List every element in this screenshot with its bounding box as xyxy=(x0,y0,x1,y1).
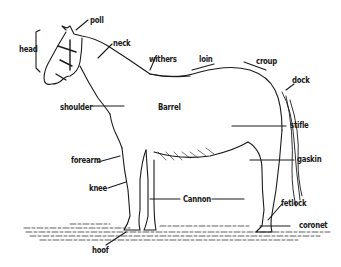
label-poll: poll xyxy=(90,15,104,25)
label-fetlock: fetlock xyxy=(281,198,306,208)
label-cannon: Cannon xyxy=(183,194,211,204)
horse-anatomy-diagram: poll head neck withers loin croup dock s… xyxy=(0,0,341,267)
label-knee: knee xyxy=(89,183,107,193)
leader-hoof xyxy=(106,232,126,245)
label-loin: loin xyxy=(199,54,213,64)
leader-neck xyxy=(98,44,112,58)
leader-knee xyxy=(108,182,126,188)
label-dock: dock xyxy=(292,75,310,85)
tail xyxy=(282,92,302,206)
label-forearm: forearm xyxy=(71,155,101,165)
label-withers: withers xyxy=(149,54,177,64)
leader-forearm xyxy=(98,156,120,162)
front-leg-near xyxy=(122,148,146,230)
label-hoof: hoof xyxy=(92,245,109,255)
belly-shading xyxy=(158,148,214,160)
label-neck: neck xyxy=(113,38,130,48)
back-line xyxy=(150,67,282,130)
label-croup: croup xyxy=(256,56,277,66)
label-barrel: Barrel xyxy=(158,102,181,112)
leader-fetlock xyxy=(268,204,282,220)
chest xyxy=(110,114,122,148)
label-shoulder: shoulder xyxy=(60,102,92,112)
horse-face-outline xyxy=(44,32,82,84)
label-stifle: stifle xyxy=(290,120,309,130)
front-leg-far xyxy=(144,150,156,230)
label-head: head xyxy=(19,44,37,54)
leader-poll xyxy=(76,20,88,30)
hind-leg xyxy=(248,130,282,232)
belly xyxy=(154,142,248,157)
horse-drawing xyxy=(0,0,341,267)
label-coronet: coronet xyxy=(299,220,327,230)
label-gaskin: gaskin xyxy=(297,154,321,164)
